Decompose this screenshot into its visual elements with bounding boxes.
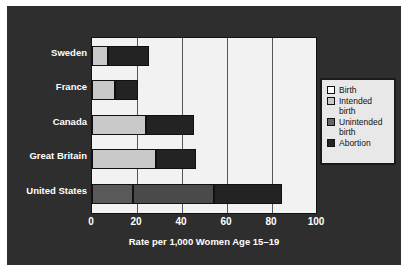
bar-segment-france-intended-birth [92, 80, 115, 100]
legend-label-abortion: Abortion [339, 138, 371, 148]
x-tick-100: 100 [308, 216, 325, 227]
figure-root: Sweden France Canada Great Britain Unite… [0, 0, 408, 272]
legend-item-abortion: Abortion [327, 138, 390, 148]
bar-segment-united-states-intended-birth [92, 184, 133, 204]
x-axis-title: Rate per 1,000 Women Age 15–19 [91, 236, 317, 247]
bar-segment-great-britain-abortion [156, 149, 196, 169]
bar-segment-canada-abortion [146, 115, 194, 135]
bar-segment-united-states-unintended-birth [133, 184, 214, 204]
category-axis-labels: Sweden France Canada Great Britain Unite… [7, 37, 87, 214]
category-label-canada: Canada [7, 116, 87, 127]
legend: Birth Intended birth Unintended birth Ab… [320, 78, 396, 165]
bar-segment-sweden-intended-birth [92, 46, 108, 66]
category-label-france: France [7, 81, 87, 92]
bar-segment-canada-intended-birth [92, 115, 146, 135]
bar-segment-france-abortion [115, 80, 138, 100]
bar-segment-great-britain-intended-birth [92, 149, 156, 169]
x-tick-20: 20 [130, 216, 141, 227]
category-label-sweden: Sweden [7, 47, 87, 58]
bars-layer [92, 38, 316, 213]
legend-item-birth: Birth [327, 85, 390, 95]
category-label-great-britain: Great Britain [7, 150, 87, 161]
legend-item-unintended-birth: Unintended birth [327, 117, 390, 137]
x-tick-0: 0 [88, 216, 94, 227]
legend-label-birth: Birth [339, 85, 356, 95]
legend-label-intended-birth: Intended birth [339, 96, 390, 116]
bar-segment-sweden-abortion [108, 46, 149, 66]
legend-swatch-birth-icon [327, 86, 335, 94]
legend-swatch-abortion-icon [327, 139, 335, 147]
x-tick-60: 60 [220, 216, 231, 227]
legend-swatch-unintended-birth-icon [327, 118, 335, 126]
plot-area [91, 37, 317, 214]
legend-swatch-intended-birth-icon [327, 97, 335, 105]
x-axis-tick-labels: 0 20 40 60 80 100 [91, 216, 317, 230]
legend-label-unintended-birth: Unintended birth [339, 117, 390, 137]
bar-segment-united-states-abortion [214, 184, 282, 204]
figure-panel: Sweden France Canada Great Britain Unite… [7, 6, 401, 265]
category-label-united-states: United States [7, 185, 87, 196]
x-tick-80: 80 [265, 216, 276, 227]
legend-item-intended-birth: Intended birth [327, 96, 390, 116]
x-tick-40: 40 [175, 216, 186, 227]
